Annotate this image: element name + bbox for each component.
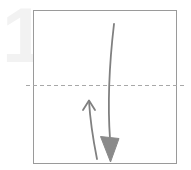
origami-step-diagram: 1 xyxy=(0,0,191,170)
diagram-canvas: 1 xyxy=(0,0,191,170)
